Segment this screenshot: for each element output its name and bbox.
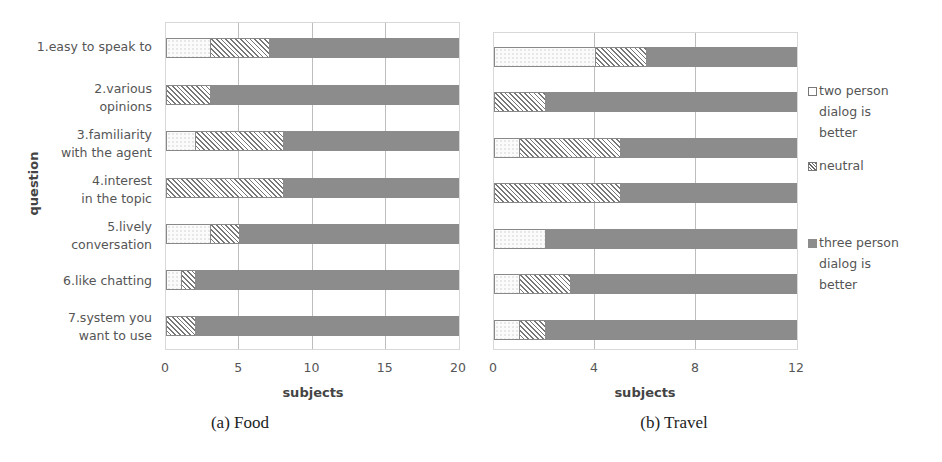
bar-3 [494,138,797,158]
bar-6 [166,270,459,290]
bar-segment-two [494,229,545,249]
bar-segment-neu [519,138,620,158]
bar-segment-neu [494,183,620,203]
bar-segment-thr [210,85,459,105]
x-tick-label: 5 [234,360,242,375]
x-axis-title-food: subjects [282,385,343,400]
bar-1 [166,38,459,58]
bar-segment-thr [269,38,459,58]
question-label-4: 4.interestin the topic [0,172,152,208]
question-label-2: 2.variousopinions [0,80,152,116]
question-label-1: 1.easy to speak to [0,38,152,56]
food-plot-area [165,22,460,350]
bar-segment-thr [239,224,459,244]
caption-food: (a) Food [211,413,269,433]
legend-item-two-person: two persondialog isbetter [808,80,889,143]
x-tick-label: 0 [161,360,169,375]
bar-segment-neu [210,224,239,244]
bar-segment-thr [545,92,798,112]
bar-4 [166,178,459,198]
legend-swatch-neutral [808,162,817,171]
bar-segment-thr [283,178,459,198]
bar-segment-thr [570,274,797,294]
legend-item-three-person: three persondialog isbetter [808,232,899,295]
bar-segment-thr [620,183,797,203]
legend-swatch-three-person [808,239,817,248]
bar-6 [494,274,797,294]
bar-segment-thr [195,270,459,290]
bar-segment-two [166,38,210,58]
bar-segment-neu [519,274,570,294]
bar-segment-thr [195,316,459,336]
question-label-6: 6.like chatting [0,272,152,290]
bar-segment-thr [646,47,798,67]
x-tick-label: 12 [788,360,804,375]
bar-segment-two [494,320,519,340]
bar-segment-two [494,274,519,294]
bar-3 [166,131,459,151]
bar-segment-two [494,47,595,67]
bar-2 [494,92,797,112]
question-label-3: 3.familiaritywith the agent [0,126,152,162]
travel-plot-area [493,32,798,350]
caption-travel: (b) Travel [640,413,708,433]
x-tick-label: 15 [377,360,393,375]
legend-item-neutral: neutral [808,155,864,176]
bar-segment-thr [620,138,797,158]
bar-segment-neu [210,38,269,58]
x-axis-title-travel: subjects [614,385,675,400]
bar-7 [166,316,459,336]
bar-segment-two [166,131,195,151]
bar-segment-neu [166,178,283,198]
bar-5 [166,224,459,244]
bar-segment-neu [166,85,210,105]
question-label-5: 5.livelyconversation [0,218,152,254]
x-tick-label: 20 [450,360,466,375]
bar-segment-thr [545,320,798,340]
bar-segment-neu [181,270,196,290]
bar-segment-neu [166,316,195,336]
bar-1 [494,47,797,67]
bar-segment-neu [595,47,646,67]
bar-4 [494,183,797,203]
bar-segment-two [494,138,519,158]
x-tick-label: 0 [489,360,497,375]
x-tick-label: 8 [691,360,699,375]
bar-2 [166,85,459,105]
bar-segment-thr [545,229,798,249]
legend-swatch-two-person [808,87,817,96]
bar-segment-neu [494,92,545,112]
bar-segment-two [166,224,210,244]
bar-segment-neu [519,320,544,340]
bar-segment-thr [283,131,459,151]
x-tick-label: 10 [304,360,320,375]
bar-7 [494,320,797,340]
x-tick-label: 4 [590,360,598,375]
bar-segment-neu [195,131,283,151]
bar-segment-two [166,270,181,290]
question-label-7: 7.system youwant to use [0,309,152,345]
bar-5 [494,229,797,249]
